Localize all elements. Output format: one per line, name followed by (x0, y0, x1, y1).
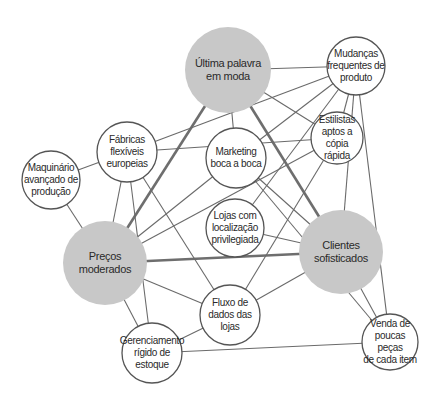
node-circle-venda (362, 314, 418, 370)
node-circle-fabricas (97, 122, 157, 182)
node-circle-gerenciamento (122, 323, 182, 383)
edge-gerenciamento-venda (152, 342, 390, 353)
node-circle-marketing (206, 128, 266, 188)
node-circle-lojas (206, 199, 264, 257)
concept-network-diagram (0, 0, 442, 403)
node-circle-clientes (299, 210, 383, 294)
node-circle-mudancas (327, 37, 385, 95)
node-circle-estilistas (311, 112, 363, 164)
nodes-layer (22, 27, 418, 383)
node-circle-precos (63, 221, 147, 305)
node-circle-ultima (185, 27, 271, 113)
node-circle-maquinario (22, 151, 80, 209)
node-circle-fluxo (200, 285, 260, 345)
edge-mudancas-venda (356, 66, 390, 342)
